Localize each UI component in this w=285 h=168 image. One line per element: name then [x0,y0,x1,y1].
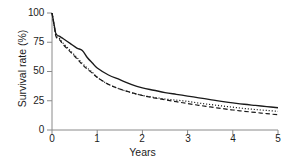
x-axis-label: Years [0,147,285,158]
xtick-label-5: 5 [268,134,285,144]
x-axis-ticks [52,130,278,135]
xtick-label-4: 4 [223,134,243,144]
xtick-label-3: 3 [178,134,198,144]
solid-curve [52,13,278,108]
data-curves [52,13,278,115]
dotted-curve [52,13,278,111]
y-axis-ticks [47,13,52,130]
xtick-label-2: 2 [132,134,152,144]
xtick-label-1: 1 [87,134,107,144]
xtick-label-0: 0 [42,134,62,144]
y-axis-label: Survival rate (%) [17,9,28,129]
survival-curve-figure: 100 75 50 25 0 0 1 2 3 4 5 Survival rate… [0,0,285,168]
